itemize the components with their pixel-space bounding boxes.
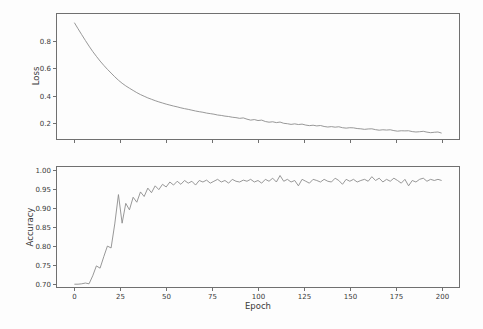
svg-text:150: 150 [344,293,357,301]
accuracy-subplot: 02550751001251501752000.700.750.800.850.… [56,166,460,288]
svg-text:125: 125 [298,293,311,301]
accuracy-y-ticks: 0.700.750.800.850.900.951.00 [35,167,56,289]
accuracy-x-ticks: 0255075100125150175200 [72,288,449,301]
svg-text:0: 0 [72,293,76,301]
svg-text:0.90: 0.90 [35,205,51,213]
svg-text:0.95: 0.95 [35,186,51,194]
svg-text:0.8: 0.8 [40,38,51,46]
svg-text:75: 75 [208,293,217,301]
accuracy-axes-frame [57,167,460,288]
svg-text:0.4: 0.4 [40,93,52,101]
figure-canvas: Loss 0.20.40.60.8 Accuracy 0255075100125… [0,0,483,329]
svg-text:25: 25 [116,293,125,301]
svg-text:50: 50 [162,293,171,301]
svg-text:0.80: 0.80 [35,243,51,251]
loss-subplot: 0.20.40.60.8 [56,13,460,140]
loss-y-axis-label: Loss [30,16,42,136]
svg-text:0.6: 0.6 [40,65,52,73]
svg-text:1.00: 1.00 [35,167,51,175]
svg-text:175: 175 [390,293,403,301]
svg-text:0.2: 0.2 [40,120,51,128]
svg-text:0.70: 0.70 [35,281,51,289]
loss-chart-svg: 0.20.40.60.8 [56,13,460,140]
svg-text:100: 100 [252,293,265,301]
x-axis-label: Epoch [56,301,460,311]
svg-text:0.85: 0.85 [35,224,51,232]
loss-x-ticks [75,140,443,143]
accuracy-chart-svg: 02550751001251501752000.700.750.800.850.… [56,166,460,288]
svg-text:0.75: 0.75 [35,262,51,270]
loss-curve [74,23,441,133]
accuracy-curve [74,176,441,285]
loss-y-ticks: 0.20.40.60.8 [40,38,56,128]
accuracy-y-axis-label: Accuracy [24,167,36,287]
svg-text:200: 200 [436,293,449,301]
